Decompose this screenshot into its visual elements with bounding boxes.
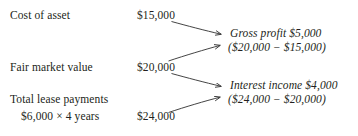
result-gross-profit-value: Gross profit $5,000	[230, 27, 321, 41]
row-label-total-lease-payments: Total lease payments	[10, 93, 108, 106]
result-gross-profit-formula: ($20,000 − $15,000)	[228, 41, 326, 55]
arrow-fmv-to-gross-profit	[169, 45, 221, 61]
result-interest-income-formula: ($24,000 − $20,000)	[228, 93, 326, 107]
row-amount-cost-of-asset: $15,000	[137, 9, 175, 22]
row-amount-total-lease-payments: $24,000	[137, 110, 175, 123]
arrow-fmv-to-interest-income	[172, 74, 222, 87]
arrow-cost-to-gross-profit	[172, 22, 222, 35]
row-sublabel-total-lease-payments: $6,000 × 4 years	[21, 110, 99, 123]
arrow-lease-payments-to-interest-income	[169, 97, 221, 112]
lease-calculation-diagram: Cost of asset $15,000 Fair market value …	[0, 0, 358, 136]
row-amount-fair-market-value: $20,000	[137, 61, 175, 74]
result-interest-income-value: Interest income $4,000	[230, 79, 338, 93]
row-label-fair-market-value: Fair market value	[10, 61, 93, 74]
row-label-cost-of-asset: Cost of asset	[10, 9, 70, 22]
